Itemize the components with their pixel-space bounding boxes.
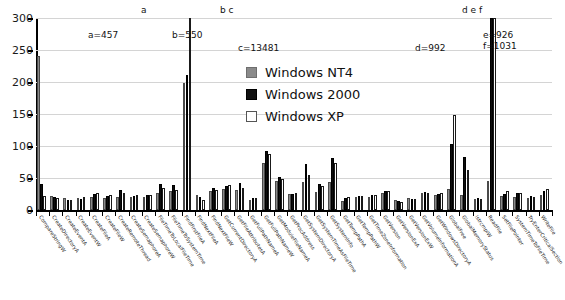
bar-group	[90, 18, 99, 210]
bar	[70, 200, 73, 210]
bar-group	[130, 18, 139, 210]
bar-group	[381, 18, 390, 210]
bar-group	[196, 18, 205, 210]
bar-group	[394, 18, 403, 210]
bar-group	[77, 18, 86, 210]
legend-swatch-w2k	[246, 89, 257, 100]
bar-group	[540, 18, 549, 210]
bar	[506, 191, 509, 210]
legend-item-xp: Windows XP	[246, 110, 360, 123]
bar	[215, 190, 218, 210]
bar-group	[368, 18, 377, 210]
bar	[374, 195, 377, 210]
annotation-c: c=13481	[238, 43, 279, 54]
bar	[123, 193, 126, 210]
bar	[109, 195, 112, 210]
y-tick-mark	[28, 114, 33, 116]
y-tick-mark	[28, 210, 33, 212]
bar	[440, 193, 443, 210]
bar	[533, 197, 536, 210]
legend-swatch-xp	[246, 111, 257, 122]
bar-group	[169, 18, 178, 210]
bar-group	[447, 18, 456, 210]
bar	[96, 193, 99, 210]
bar-group	[116, 18, 125, 210]
bar	[546, 189, 549, 210]
bar-group	[50, 18, 59, 210]
bar-group	[63, 18, 72, 210]
bar	[400, 202, 403, 210]
annotation-ef: e=926 f=1031	[483, 30, 517, 53]
bar-group	[103, 18, 112, 210]
bar-group	[222, 18, 231, 210]
bar	[453, 115, 456, 210]
bar	[467, 170, 470, 210]
overflow-marker-a: a	[141, 6, 147, 15]
y-tick-mark	[28, 146, 33, 148]
bar	[43, 196, 46, 210]
legend-label-w2k: Windows 2000	[265, 88, 360, 101]
bar	[189, 18, 192, 210]
bar	[202, 200, 205, 210]
annotation-d: d=992	[415, 43, 445, 54]
overflow-marker-bc: b c	[220, 6, 234, 15]
annotation-b: b=550	[172, 30, 202, 41]
bar-group	[156, 18, 165, 210]
bar	[308, 175, 311, 210]
bar	[414, 199, 417, 210]
bar	[268, 154, 271, 210]
bar	[175, 190, 178, 210]
y-tick-mark	[28, 18, 33, 20]
bar	[387, 191, 390, 210]
bar	[334, 163, 337, 210]
bar-group	[37, 18, 46, 210]
bar	[295, 193, 298, 210]
bar	[255, 198, 258, 210]
y-axis-labels: 050100150200250300	[0, 18, 33, 211]
bar-group	[460, 18, 469, 210]
legend-label-nt4: Windows NT4	[265, 66, 353, 79]
legend-swatch-nt4	[246, 67, 257, 78]
bar	[136, 195, 139, 210]
legend-item-w2k: Windows 2000	[246, 88, 360, 101]
legend: Windows NT4 Windows 2000 Windows XP	[246, 66, 360, 123]
x-axis-category-labels: CompareStringWCreateDirectoryACreateEven…	[36, 214, 556, 300]
bar	[56, 198, 59, 210]
bar	[427, 193, 430, 210]
y-tick-mark	[28, 178, 33, 180]
bar	[83, 197, 86, 210]
bar-group	[527, 18, 536, 210]
y-tick-mark	[28, 50, 33, 52]
bar-group	[143, 18, 152, 210]
bar-group	[474, 18, 483, 210]
bar-group	[183, 18, 192, 210]
bar	[162, 188, 165, 210]
y-tick-mark	[28, 82, 33, 84]
bar	[321, 186, 324, 210]
bar	[519, 193, 522, 210]
bar	[480, 199, 483, 210]
bar	[149, 195, 152, 210]
bar	[228, 185, 231, 210]
bar-group	[209, 18, 218, 210]
bar	[347, 197, 350, 210]
legend-label-xp: Windows XP	[265, 110, 344, 123]
bar	[242, 188, 245, 210]
bar	[361, 196, 364, 210]
legend-item-nt4: Windows NT4	[246, 66, 360, 79]
bar	[281, 179, 284, 210]
annotation-a: a=457	[88, 30, 118, 41]
overflow-marker-def: d e f	[462, 6, 482, 15]
